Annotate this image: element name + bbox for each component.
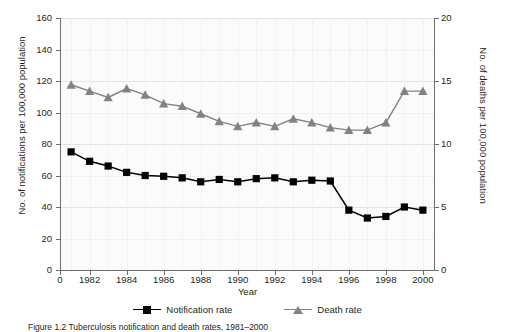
legend-label-death-rate: Death rate — [317, 304, 361, 315]
x-axis-tick-label: 1996 — [329, 274, 369, 285]
notification-rate-marker-icon — [133, 304, 161, 315]
x-axis-line — [60, 270, 435, 271]
series-notification-rate — [68, 148, 427, 221]
data-point-square — [216, 176, 223, 183]
data-point-triangle — [196, 109, 205, 118]
x-axis-tick-label: 1982 — [70, 274, 110, 285]
y-axis-right-tick-label: 5 — [441, 201, 471, 212]
x-axis-tick-label: 1998 — [366, 274, 406, 285]
series-death-rate — [67, 80, 428, 134]
data-point-square — [345, 207, 352, 214]
y-axis-right-tick-mark — [435, 18, 439, 19]
data-point-square — [253, 175, 260, 182]
y-axis-right-tick-mark — [435, 270, 439, 271]
data-point-triangle — [252, 118, 261, 127]
figure-caption: Figure 1.2 Tuberculosis notification and… — [28, 322, 498, 332]
chart-legend: Notification rate Death rate — [60, 301, 435, 317]
death-rate-marker-icon — [284, 304, 312, 315]
x-axis-tick-mark — [275, 271, 276, 275]
data-point-triangle — [67, 80, 76, 89]
data-point-triangle — [215, 117, 224, 126]
x-axis-tick-mark — [164, 271, 165, 275]
data-point-square — [308, 177, 315, 184]
y-axis-right-tick-label: 10 — [441, 138, 471, 149]
y-axis-right-tick-mark — [435, 81, 439, 82]
legend-item-death-rate: Death rate — [284, 304, 361, 315]
data-point-square — [419, 207, 426, 214]
x-axis-tick-mark — [60, 271, 61, 275]
data-point-square — [290, 178, 297, 185]
x-axis-tick-mark — [349, 271, 350, 275]
data-point-triangle — [159, 99, 168, 108]
data-point-square — [142, 172, 149, 179]
data-point-square — [401, 203, 408, 210]
data-point-square — [382, 213, 389, 220]
x-axis-tick-mark — [386, 271, 387, 275]
y-axis-left-title: No. of notifications per 100,000 populat… — [16, 11, 27, 241]
data-point-square — [123, 169, 130, 176]
data-point-square — [197, 178, 204, 185]
legend-item-notification-rate: Notification rate — [133, 304, 232, 315]
y-axis-right-tick-label: 15 — [441, 75, 471, 86]
x-axis-tick-mark — [127, 271, 128, 275]
data-point-square — [234, 178, 241, 185]
data-point-square — [327, 177, 334, 184]
y-axis-right-tick-mark — [435, 207, 439, 208]
series-layer — [60, 18, 434, 270]
data-point-triangle — [104, 93, 113, 102]
x-axis-tick-mark — [201, 271, 202, 275]
data-point-triangle — [141, 90, 150, 99]
x-axis-tick-label: 2000 — [403, 274, 443, 285]
x-axis-tick-label: 1992 — [255, 274, 295, 285]
x-axis-title: Year — [60, 286, 435, 297]
data-point-square — [364, 214, 371, 221]
y-axis-right-tick-label: 0 — [441, 264, 471, 275]
x-axis-tick-label: 1986 — [144, 274, 184, 285]
data-point-square — [160, 173, 167, 180]
series-line — [71, 152, 423, 218]
y-axis-right-title: No. of deaths per 100,000 population — [478, 11, 489, 241]
data-point-triangle — [122, 84, 131, 93]
x-axis-tick-label: 1990 — [218, 274, 258, 285]
x-axis-tick-label: 1984 — [107, 274, 147, 285]
data-point-triangle — [289, 114, 298, 123]
y-axis-right-tick-mark — [435, 144, 439, 145]
x-axis-tick-mark — [312, 271, 313, 275]
y-axis-right-tick-label: 20 — [441, 12, 471, 23]
data-point-square — [271, 174, 278, 181]
x-axis-tick-mark — [90, 271, 91, 275]
legend-label-notification-rate: Notification rate — [166, 304, 232, 315]
data-point-triangle — [85, 86, 94, 95]
data-point-square — [86, 158, 93, 165]
data-point-square — [179, 174, 186, 181]
data-point-triangle — [381, 118, 390, 127]
x-axis-tick-label: 1994 — [292, 274, 332, 285]
x-axis-tick-mark — [423, 271, 424, 275]
x-axis-tick-label: 1988 — [181, 274, 221, 285]
data-point-square — [105, 162, 112, 169]
data-point-square — [68, 148, 75, 155]
x-axis-tick-mark — [238, 271, 239, 275]
